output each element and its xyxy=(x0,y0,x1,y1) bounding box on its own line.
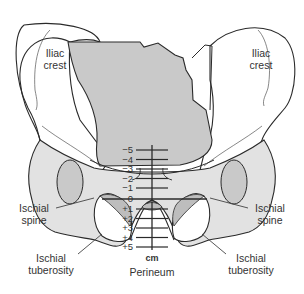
pelvis-illustration xyxy=(0,0,304,294)
right-acetabulum xyxy=(221,160,247,204)
label-ischial-tuberosity-right: Ischial tuberosity xyxy=(222,252,280,276)
label-ischial-spine-left: Ischial spine xyxy=(14,202,54,226)
label-unit-cm: cm xyxy=(142,252,162,264)
station-tick-minus-1: −1 xyxy=(115,183,133,193)
label-iliac-crest-left: Iliac crest xyxy=(38,47,72,71)
label-perineum: Perineum xyxy=(124,266,180,278)
label-iliac-crest-right: Iliac crest xyxy=(244,47,278,71)
label-ischial-tuberosity-left: Ischial tuberosity xyxy=(22,252,80,276)
station-tick-plus-5: +5 xyxy=(115,242,133,252)
label-ischial-spine-right: Ischial spine xyxy=(250,202,290,226)
pelvis-station-diagram: Iliac crest Iliac crest Ischial spine Is… xyxy=(0,0,304,294)
left-acetabulum xyxy=(57,160,83,204)
